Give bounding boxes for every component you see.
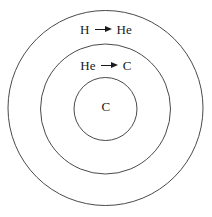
arrow-right-icon: [101, 61, 118, 70]
outer-shell-reactant: H: [80, 23, 90, 36]
outer-shell-reaction-label: H He: [0, 23, 212, 36]
middle-shell-product: C: [123, 59, 132, 72]
outer-shell-product: He: [117, 23, 133, 36]
core-species-label: C: [0, 100, 212, 113]
stellar-shell-diagram: H He He C C: [0, 0, 212, 217]
middle-shell-reactant: He: [80, 59, 96, 72]
middle-shell-reaction-label: He C: [0, 59, 212, 72]
arrow-right-icon: [95, 25, 112, 34]
core-species: C: [102, 100, 111, 113]
